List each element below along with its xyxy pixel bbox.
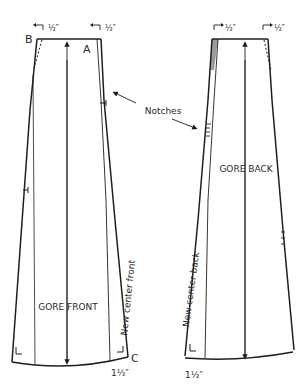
arrowhead-icon — [33, 23, 36, 27]
pattern-diagram: B A C ½″ ½″ 1½″ GORE FRONT New center fr… — [0, 0, 305, 387]
front-top-right-measure: ½″ — [105, 24, 116, 33]
gore-front-piece — [12, 23, 128, 366]
back-bottom-measure: 1½″ — [185, 370, 203, 380]
front-corner-mark-left — [16, 347, 22, 354]
gore-front-title: GORE FRONT — [38, 302, 98, 312]
notches-arrow-back — [172, 119, 195, 128]
front-left-measure-arrow — [36, 25, 43, 30]
front-right-measure-arrow — [93, 25, 100, 30]
arrowhead-icon — [270, 23, 273, 27]
back-right-measure-arrow — [263, 25, 270, 30]
front-hemline — [12, 357, 128, 366]
back-left-measure-arrow — [214, 25, 221, 30]
front-top-left-measure: ½″ — [48, 24, 59, 33]
point-label-c: C — [131, 352, 139, 365]
point-label-b: B — [25, 33, 33, 46]
back-top-left-measure: ½″ — [225, 24, 236, 33]
back-hemline — [185, 352, 293, 359]
back-right-seam — [268, 39, 294, 350]
front-corner-mark-right — [117, 346, 123, 352]
arrowhead-icon — [221, 23, 224, 27]
point-label-a: A — [83, 43, 91, 56]
notches-label: Notches — [145, 106, 182, 116]
new-center-back-label: New center back — [181, 251, 202, 328]
back-top-right-measure: ½″ — [274, 24, 285, 33]
gore-back-piece — [185, 23, 294, 359]
back-inner-left-guide — [205, 39, 218, 358]
front-inner-left-guide — [33, 75, 35, 364]
arrowhead-icon — [90, 23, 93, 27]
back-corner-mark-left — [190, 344, 196, 351]
front-bottom-measure: 1½″ — [111, 368, 129, 378]
notches-arrow-front — [115, 93, 136, 103]
gore-back-title: GORE BACK — [219, 164, 273, 174]
back-notches-left — [206, 124, 211, 136]
